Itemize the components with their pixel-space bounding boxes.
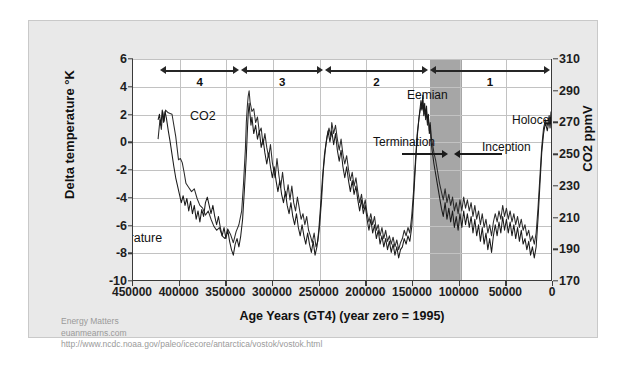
mis-stage-line bbox=[329, 70, 424, 72]
y-axis-left-tick-label: -8 bbox=[93, 247, 127, 260]
y-axis-right-ticks: 310290270250230210190170 bbox=[559, 59, 605, 281]
x-axis-tick-mark bbox=[365, 281, 366, 286]
x-axis-tick-mark bbox=[505, 281, 506, 286]
y-axis-right-tick-label: 210 bbox=[559, 211, 603, 224]
y-axis-right-tick-mark bbox=[553, 90, 558, 91]
y-axis-right-tick-label: 250 bbox=[559, 148, 603, 161]
y-axis-right-tick-mark bbox=[553, 280, 558, 281]
x-axis-tick-mark bbox=[225, 281, 226, 286]
series-label-co2: CO2 bbox=[190, 109, 216, 123]
y-axis-left-tick-label: 4 bbox=[93, 81, 127, 94]
x-axis-tick-mark bbox=[179, 281, 180, 286]
x-axis-tick-mark bbox=[272, 281, 273, 286]
x-axis-tick-mark bbox=[132, 281, 133, 286]
x-axis-tick-mark bbox=[412, 281, 413, 286]
figure-card: Delta temperature °K CO2 ppmV 6420-2-4-6… bbox=[28, 20, 598, 338]
series-lines bbox=[133, 59, 551, 280]
y-axis-right-tick-label: 170 bbox=[559, 275, 603, 288]
y-axis-right-tick-mark bbox=[553, 217, 558, 218]
y-axis-right-tick-mark bbox=[553, 58, 558, 59]
y-axis-right-tick-mark bbox=[553, 249, 558, 250]
y-axis-right-tick-label: 230 bbox=[559, 180, 603, 193]
x-axis-tick-label: 250000 bbox=[299, 286, 339, 298]
y-axis-right-tick-label: 290 bbox=[559, 84, 603, 97]
mis-stage-4: 4 bbox=[160, 64, 239, 78]
mis-stage-row: 4321 bbox=[132, 59, 552, 85]
y-axis-left-tick-label: 2 bbox=[93, 108, 127, 121]
y-axis-left-tick-label: 0 bbox=[93, 136, 127, 149]
x-axis-tick-label: 200000 bbox=[345, 286, 385, 298]
credits-block: Energy Matters euanmearns.com http://www… bbox=[61, 316, 322, 351]
mis-stage-label: 4 bbox=[160, 77, 239, 89]
y-axis-left-tick-label: 6 bbox=[93, 53, 127, 66]
y-axis-right-tick-label: 190 bbox=[559, 243, 603, 256]
mis-stage-arrow-head-right bbox=[317, 66, 323, 74]
mis-stage-label: 3 bbox=[241, 77, 323, 89]
y-axis-left-tick-label: -6 bbox=[93, 219, 127, 232]
x-axis-tick-label: 350000 bbox=[205, 286, 245, 298]
x-axis-tick-mark bbox=[459, 281, 460, 286]
annotation-holocene: Holocene bbox=[512, 114, 552, 126]
mis-stage-2: 2 bbox=[325, 64, 428, 78]
y-axis-right-tick-label: 270 bbox=[559, 116, 603, 129]
credit-line-source: Energy Matters bbox=[61, 316, 322, 328]
plot-area: EemianHoloceneTerminationInception CO2Te… bbox=[132, 59, 552, 281]
y-axis-left-ticks: 6420-2-4-6-8-10 bbox=[87, 59, 127, 281]
mis-stage-arrow-head-right bbox=[422, 66, 428, 74]
y-axis-right-tick-mark bbox=[553, 185, 558, 186]
annotation-arrow-head-inception bbox=[454, 150, 460, 158]
credit-line-site: euanmearns.com bbox=[61, 328, 322, 340]
x-axis-tick-mark bbox=[552, 281, 553, 286]
series-line-co2 bbox=[158, 91, 551, 250]
y-axis-left-tick-label: -4 bbox=[93, 192, 127, 205]
annotation-inception: Inception bbox=[482, 141, 531, 153]
mis-stage-label: 1 bbox=[430, 77, 550, 89]
mis-stage-3: 3 bbox=[241, 64, 323, 78]
x-axis-tick-label: 50000 bbox=[489, 286, 522, 298]
mis-stage-arrow-head-right bbox=[233, 66, 239, 74]
annotation-arrow-line-inception bbox=[460, 153, 502, 155]
mis-stage-line bbox=[245, 70, 319, 72]
x-axis-ticks: 4500004000003500003000002500002000001500… bbox=[132, 286, 552, 302]
series-label-temperature: Temperature bbox=[132, 231, 162, 245]
y-axis-right-tick-mark bbox=[553, 122, 558, 123]
mis-stage-arrow-head-left bbox=[241, 66, 247, 74]
mis-stage-label: 2 bbox=[325, 77, 428, 89]
x-axis-tick-label: 300000 bbox=[252, 286, 292, 298]
x-axis-tick-label: 0 bbox=[549, 286, 556, 298]
annotation-arrow-line-termination bbox=[402, 153, 442, 155]
annotation-eemian: Eemian bbox=[407, 89, 448, 101]
mis-stage-arrow-head-left bbox=[325, 66, 331, 74]
mis-stage-line bbox=[164, 70, 235, 72]
y-axis-right-tick-label: 310 bbox=[559, 53, 603, 66]
y-axis-right-tick-mark bbox=[553, 153, 558, 154]
mis-stage-line bbox=[434, 70, 546, 72]
x-axis-tick-label: 100000 bbox=[439, 286, 479, 298]
credit-line-url[interactable]: http://www.ncdc.noaa.gov/paleo/icecore/a… bbox=[61, 339, 322, 351]
x-axis-tick-label: 450000 bbox=[112, 286, 152, 298]
x-axis-tick-mark bbox=[319, 281, 320, 286]
x-axis-tick-label: 150000 bbox=[392, 286, 432, 298]
mis-stage-arrow-head-left bbox=[430, 66, 436, 74]
annotation-arrow-head-termination bbox=[442, 150, 448, 158]
annotation-termination: Termination bbox=[373, 136, 435, 148]
mis-stage-arrow-head-left bbox=[160, 66, 166, 74]
y-axis-left-tick-label: -2 bbox=[93, 164, 127, 177]
mis-stage-1: 1 bbox=[430, 64, 550, 78]
y-axis-left-title: Delta temperature °K bbox=[62, 35, 77, 235]
mis-stage-arrow-head-right bbox=[544, 66, 550, 74]
x-axis-tick-label: 400000 bbox=[159, 286, 199, 298]
